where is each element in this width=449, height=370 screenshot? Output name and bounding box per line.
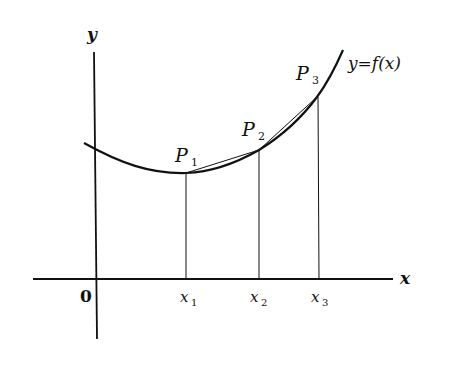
function-secant-diagram: y x 0 y=f(x) P 1 P 2 P 3 x 1 x 2 x 3 [0,0,449,370]
svg-text:P: P [295,62,310,84]
origin-label: 0 [80,286,92,306]
svg-text:x: x [311,288,320,306]
tick-label-x2: x 2 [250,288,267,308]
svg-text:3: 3 [312,74,319,87]
svg-text:P: P [241,118,256,140]
svg-text:P: P [174,144,189,166]
y-axis-label: y [86,24,98,44]
svg-text:2: 2 [261,297,267,308]
curve-label: y=f(x) [347,53,401,73]
svg-text:2: 2 [258,130,265,143]
svg-text:1: 1 [191,156,198,169]
svg-text:1: 1 [191,297,197,308]
point-label-p3: P 3 [295,62,319,87]
tick-label-x3: x 3 [311,288,328,308]
chord-p2-p3 [259,97,317,150]
svg-text:3: 3 [322,297,328,308]
drop-line-x3 [318,97,319,279]
tick-label-x1: x 1 [180,288,197,308]
point-label-p1: P 1 [174,144,198,169]
svg-text:x: x [180,288,189,306]
x-axis-label: x [399,268,411,288]
point-label-p2: P 2 [241,118,265,143]
svg-text:x: x [250,288,259,306]
y-axis [94,52,97,339]
